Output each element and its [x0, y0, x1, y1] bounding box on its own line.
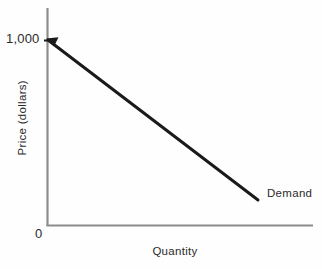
y-axis-tick-label-1000: 1,000	[6, 32, 40, 45]
demand-curve-figure: 1,000 0 Price (dollars) Quantity Demand	[0, 0, 322, 269]
demand-curve-line	[48, 40, 258, 200]
x-axis-title-wrapper: Quantity	[0, 246, 322, 258]
demand-curve-label: Demand	[267, 188, 312, 200]
y-axis-title: Price (dollars)	[17, 68, 29, 168]
chart-plot-area	[0, 0, 322, 269]
axis-origin-label: 0	[35, 227, 42, 240]
x-axis-title: Quantity	[152, 246, 197, 258]
